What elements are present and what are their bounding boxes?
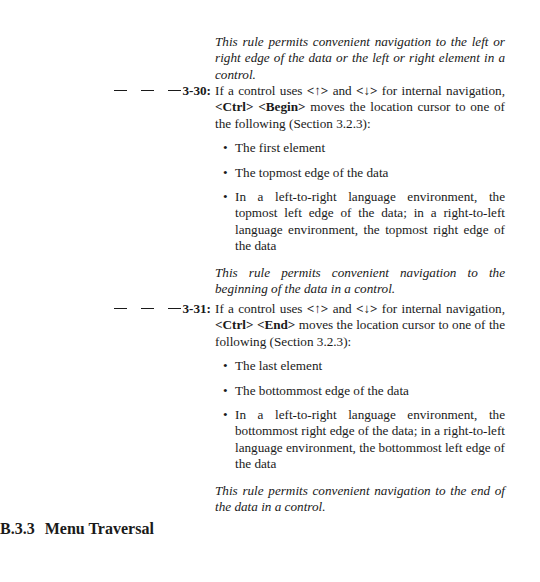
- list-item: •The first element: [215, 140, 505, 156]
- rule-number: 3-30:: [182, 83, 211, 98]
- intro-note: This rule permits convenient navigation …: [215, 34, 505, 83]
- rule-marker: 3-30:: [78, 83, 211, 99]
- checkbox-blank: [114, 308, 127, 309]
- list-item: •The bottommost edge of the data: [215, 383, 505, 399]
- checkbox-blank: [114, 90, 127, 91]
- checkbox-blank: [141, 90, 154, 91]
- key-begin: <Begin>: [258, 99, 305, 114]
- key-up: <↑>: [307, 301, 329, 316]
- key-down: <↓>: [356, 83, 378, 98]
- key-down: <↓>: [356, 301, 378, 316]
- rule-marker: 3-31:: [78, 301, 211, 317]
- intro-note-text: This rule permits convenient navigation …: [215, 34, 505, 83]
- checkbox-blank: [141, 308, 154, 309]
- rule-note: This rule permits convenient navigation …: [215, 483, 505, 516]
- section-heading: B.3.3Menu Traversal: [0, 521, 154, 537]
- section-title: Menu Traversal: [45, 520, 154, 537]
- rule-bullet-list: •The first element •The topmost edge of …: [215, 140, 505, 254]
- key-ctrl: <Ctrl>: [215, 99, 253, 114]
- list-item: •The last element: [215, 358, 505, 374]
- list-item: •The topmost edge of the data: [215, 165, 505, 181]
- list-item: •In a left-to-right language environment…: [215, 189, 505, 255]
- key-up: <↑>: [307, 83, 329, 98]
- rule-number: 3-31:: [182, 301, 211, 316]
- rule-body: If a control uses <↑> and <↓> for intern…: [215, 83, 505, 297]
- rule-note: This rule permits convenient navigation …: [215, 265, 505, 298]
- rule-text: If a control uses <↑> and <↓> for intern…: [215, 301, 505, 350]
- checkbox-blank: [168, 90, 181, 91]
- list-item: •In a left-to-right language environment…: [215, 407, 505, 473]
- rule-text: If a control uses <↑> and <↓> for intern…: [215, 83, 505, 132]
- checkbox-blank: [168, 308, 181, 309]
- rule-bullet-list: •The last element •The bottommost edge o…: [215, 358, 505, 472]
- key-end: <End>: [257, 317, 296, 332]
- rule-body: If a control uses <↑> and <↓> for intern…: [215, 301, 505, 515]
- key-ctrl: <Ctrl>: [215, 317, 253, 332]
- section-number: B.3.3: [0, 520, 35, 537]
